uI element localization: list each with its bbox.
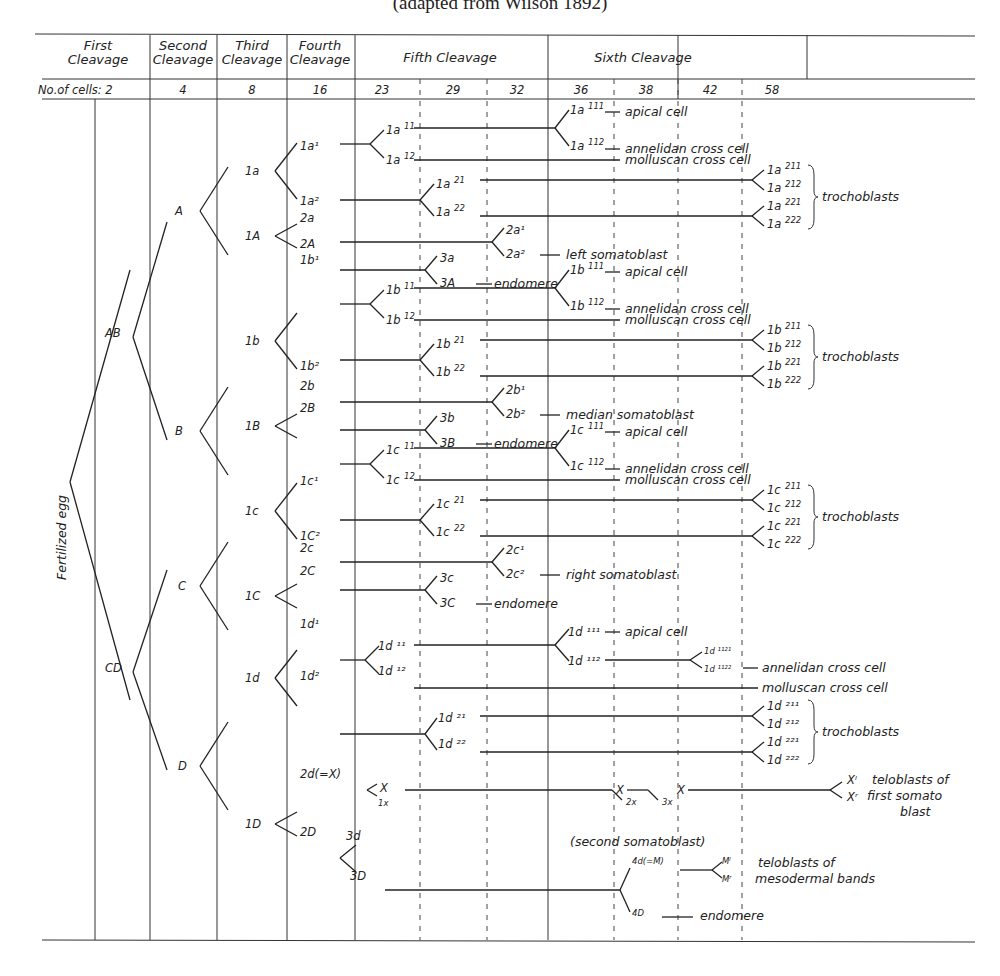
branch-line [275,824,297,836]
branch-line [425,590,437,604]
cell-label: 1d ¹¹²² [704,664,732,674]
cell-label: 1a [767,181,781,195]
cell-label-sup: 221 [785,517,801,527]
cleavage-lineage-diagram: FirstCleavageSecondCleavageThirdCleavage… [0,0,1000,976]
cell-label-sup: 222 [785,215,801,225]
gen16-label: 2D [300,825,316,839]
footer-rule [42,940,975,942]
cell-label: 1d [245,671,260,685]
fate-trochoblasts: trochoblasts [822,349,900,364]
cell-label: Xʳ [846,790,859,804]
branch-line [555,288,569,306]
branch-line [555,448,569,466]
branch-line [275,596,297,608]
branch-line [712,870,722,878]
cell-label: 1a [767,163,781,177]
branch-line [370,130,384,144]
cell-label: 1c [386,473,400,487]
cell-label: 1b [570,299,585,313]
cell-label: 1b [436,337,451,351]
cleavage-header: Cleavage [153,52,214,67]
cleavage-header: Cleavage [222,52,283,67]
cell-label-sup: 111 [588,261,604,271]
trochoblast-brace [808,485,818,549]
branch-line [425,416,437,430]
fate-molluscan-cross-cell: molluscan cross cell [625,472,751,487]
gen16-label: 2d(=X) [300,767,341,781]
cell-label-sup: 212 [785,499,801,509]
branch-line [752,206,764,216]
cell-label: 1d ²² [438,737,466,751]
cell-label-sup: 22 [454,523,465,533]
fate-trochoblasts: trochoblasts [822,509,900,524]
gen16-label: 2b [300,379,315,393]
cell-label: 2x [626,797,637,807]
cell-label: 1a [570,139,584,153]
cell-label-sup: 21 [454,335,465,345]
branch-line [365,646,379,660]
branch-line [752,526,764,536]
branch-line [492,562,504,576]
cell-label: 3b [440,411,455,425]
gen16-label: 1d¹ [300,617,319,631]
cell-count: 29 [446,83,461,97]
cell-label: Mˡ [722,856,731,866]
branch-line [555,110,569,128]
branch-line [752,716,764,726]
branch-line [200,722,228,766]
branch-line [200,586,228,630]
cell-label-sup: 11 [404,441,415,451]
cell-label: 1a [570,103,584,117]
branch-line [275,143,297,171]
branch-line [200,431,228,475]
cleavage-header: First [84,38,113,53]
fate-somatoblast: left somatoblast [566,247,669,262]
cell-label: 1x [378,798,389,808]
fate-apical-cell: apical cell [625,104,688,119]
fate-trochoblasts: trochoblasts [822,189,900,204]
branch-line [275,224,297,236]
cell-label: 3x [662,797,673,807]
fate-trochoblasts: trochoblasts [822,724,900,739]
branch-line [275,171,297,199]
cell-label-sup: 112 [588,297,604,307]
branch-line [275,341,297,369]
branch-line [365,660,379,674]
gen16-label: 1b² [300,359,320,373]
fate-somatoblast: right somatoblast [566,567,677,582]
cell-label-sup: 11 [404,281,415,291]
branch-line [425,734,437,750]
cell-label: 1a [386,123,400,137]
cell-count: 42 [703,83,718,97]
fate-endomere: endomere [494,596,558,611]
cell-label: 1d ¹¹²¹ [704,646,731,656]
branch-line [492,242,504,256]
fate-apical-cell: apical cell [625,264,688,279]
branch-line [492,228,504,242]
fate-molluscan-cross-cell: molluscan cross cell [625,152,751,167]
branch-line [712,862,722,870]
branch-line [275,812,297,824]
branch-line [367,790,377,796]
fate-teloblasts: blast [900,804,932,819]
branch-line [830,782,842,790]
sixth-cleavage-header: Sixth Cleavage [594,50,692,65]
cell-label-sup: 22 [454,203,465,213]
fate-molluscan-cross-cell: molluscan cross cell [625,312,751,327]
branch-line [370,144,384,158]
branch-line [555,645,569,661]
branch-line [752,340,764,350]
branch-line [752,536,764,546]
cell-label-sup: 22 [454,363,465,373]
cell-label-sup: 211 [785,161,801,171]
cell-label: 1d ¹² [378,664,406,678]
fate-teloblasts: mesodermal bands [755,871,876,886]
branch-line [425,430,437,444]
cell-label: 4d(=M) [632,856,664,866]
cell-label: 3c [440,571,454,585]
cell-label: 1a [767,217,781,231]
branch-line [200,542,228,586]
branch-line [492,548,504,562]
cell-label: 1c [436,525,450,539]
branch-line [690,652,702,660]
